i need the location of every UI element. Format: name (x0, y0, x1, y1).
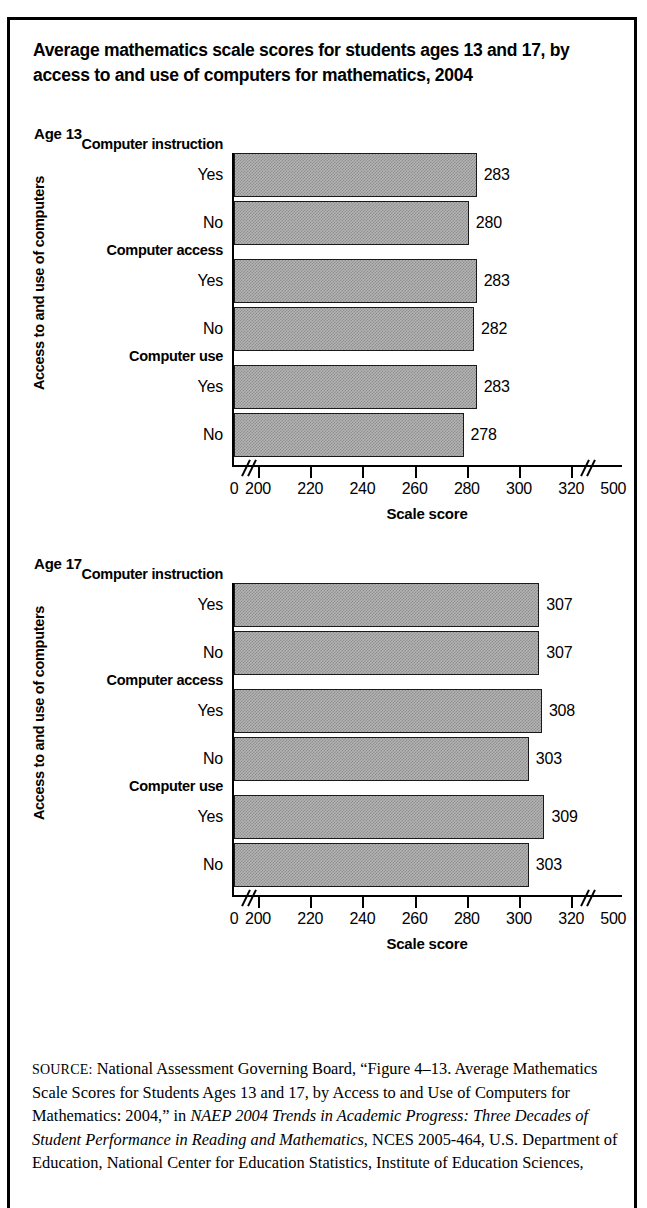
y-axis-title-age-13: Access to and use of computers (31, 168, 47, 398)
x-axis-tick (362, 897, 364, 908)
bar-group-label: Computer use (129, 778, 223, 794)
bar-row-label: No (203, 320, 223, 338)
bar-value-label: 309 (551, 808, 577, 826)
bar-row-label: Yes (197, 702, 223, 720)
x-axis-tick-label: 200 (245, 910, 271, 928)
x-axis-tick-label: 200 (245, 480, 271, 498)
bar-value-label: 283 (484, 272, 510, 290)
x-axis-tick-label: 0 (230, 480, 239, 498)
source-note: SOURCE: National Assessment Governing Bo… (32, 1057, 632, 1174)
x-axis-tick-label: 280 (454, 480, 480, 498)
bar-group-label: Computer access (107, 672, 223, 688)
plot-area-age-17: Computer instructionYes307No307Computer … (232, 583, 628, 901)
bar (234, 843, 529, 887)
x-axis-tick-label: 320 (558, 480, 584, 498)
bar-value-label: 278 (471, 426, 497, 444)
bar-row-label: No (203, 750, 223, 768)
bar-row-label: Yes (197, 596, 223, 614)
bar-row: Yes307 (232, 583, 628, 627)
chart-panel-age-13: Age 13 Access to and use of computers Co… (10, 125, 640, 545)
bar-row: Yes283 (232, 259, 628, 303)
bar-group-label: Computer use (129, 348, 223, 364)
x-axis-tick-label: 260 (402, 480, 428, 498)
bar (234, 737, 529, 781)
x-axis-tick-label: 280 (454, 910, 480, 928)
x-axis-tick (415, 467, 417, 478)
x-axis-title-age-13: Scale score (232, 505, 622, 522)
axis-break-mark (242, 889, 260, 907)
axis-break-mark (581, 889, 599, 907)
source-label: SOURCE: (32, 1062, 93, 1077)
x-axis-tick-label: 500 (600, 910, 626, 928)
x-axis-tick (362, 467, 364, 478)
bar-group-label: Computer instruction (82, 136, 223, 152)
bar-row-label: No (203, 644, 223, 662)
x-axis-tick (519, 467, 521, 478)
bar (234, 413, 464, 457)
figure-title: Average mathematics scale scores for stu… (33, 38, 619, 88)
bar-row: No280 (232, 201, 628, 245)
x-axis-title-age-17: Scale score (232, 935, 622, 952)
x-axis-age-17: Scale score 0200220240260280300320500 (232, 895, 628, 955)
x-axis-line (232, 895, 622, 897)
bar (234, 307, 474, 351)
axis-break-mark (242, 459, 260, 477)
bar-row-label: No (203, 856, 223, 874)
x-axis-tick-label: 300 (506, 480, 532, 498)
bar-group-label: Computer access (107, 242, 223, 258)
bar-value-label: 308 (549, 702, 575, 720)
bar (234, 365, 477, 409)
bar-value-label: 303 (536, 856, 562, 874)
x-axis-line (232, 465, 622, 467)
bar-row-label: No (203, 214, 223, 232)
bar-row-label: Yes (197, 272, 223, 290)
bar-row: Yes308 (232, 689, 628, 733)
bar-value-label: 307 (546, 596, 572, 614)
bar (234, 153, 477, 197)
bar-value-label: 307 (546, 644, 572, 662)
bar (234, 201, 469, 245)
x-axis-tick (571, 897, 573, 908)
x-axis-tick (519, 897, 521, 908)
bar (234, 583, 539, 627)
x-axis-tick-label: 240 (349, 910, 375, 928)
x-axis-tick (467, 467, 469, 478)
figure-frame: Average mathematics scale scores for stu… (7, 17, 637, 1208)
panel-label-age-17: Age 17 (34, 555, 82, 572)
chart-panel-age-17: Age 17 Access to and use of computers Co… (10, 555, 640, 980)
bar-row-label: Yes (197, 166, 223, 184)
bar-row: No303 (232, 843, 628, 887)
x-axis-tick-label: 220 (297, 910, 323, 928)
bar-group-label: Computer instruction (82, 566, 223, 582)
x-axis-tick-label: 240 (349, 480, 375, 498)
bar-value-label: 283 (484, 378, 510, 396)
axis-break-mark (581, 459, 599, 477)
bar-row: Yes283 (232, 153, 628, 197)
bar-row: Yes309 (232, 795, 628, 839)
x-axis-tick-label: 260 (402, 910, 428, 928)
x-axis-tick-label: 320 (558, 910, 584, 928)
bar-row: No282 (232, 307, 628, 351)
x-axis-tick-label: 0 (230, 910, 239, 928)
x-axis-tick (310, 897, 312, 908)
x-axis-tick-label: 500 (600, 480, 626, 498)
x-axis-tick (415, 897, 417, 908)
plot-area-age-13: Computer instructionYes283No280Computer … (232, 153, 628, 471)
x-axis-age-13: Scale score 0200220240260280300320500 (232, 465, 628, 525)
bar (234, 631, 539, 675)
bar-value-label: 303 (536, 750, 562, 768)
bar-value-label: 280 (476, 214, 502, 232)
bar-row-label: No (203, 426, 223, 444)
bar (234, 259, 477, 303)
bar (234, 795, 544, 839)
bar-row: No303 (232, 737, 628, 781)
x-axis-tick (310, 467, 312, 478)
x-axis-tick (571, 467, 573, 478)
bar-row-label: Yes (197, 808, 223, 826)
bar-row: No307 (232, 631, 628, 675)
x-axis-tick-label: 300 (506, 910, 532, 928)
panel-label-age-13: Age 13 (34, 125, 82, 142)
y-axis-title-age-17: Access to and use of computers (31, 598, 47, 828)
bar (234, 689, 542, 733)
x-axis-tick (467, 897, 469, 908)
